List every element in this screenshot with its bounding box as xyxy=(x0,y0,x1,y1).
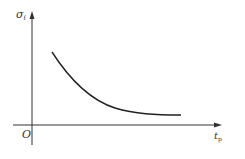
x-axis-arrow-icon xyxy=(214,123,222,128)
y-axis-arrow-icon xyxy=(30,11,35,19)
data-curve xyxy=(52,52,181,115)
y-axis-label: σf xyxy=(16,9,26,21)
y-axis-label-subscript: f xyxy=(24,14,26,21)
origin-label: O xyxy=(22,129,31,140)
chart-canvas xyxy=(0,0,245,159)
x-axis-label-subscript: p xyxy=(218,135,222,142)
x-axis-label: tp xyxy=(214,131,222,142)
y-axis-label-main: σ xyxy=(16,8,24,21)
